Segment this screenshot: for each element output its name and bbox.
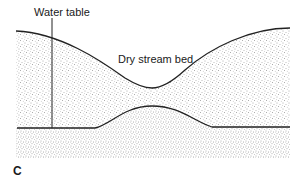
dry-stream-bed-label: Dry stream bed xyxy=(118,53,193,65)
panel-label: C xyxy=(13,164,22,178)
cross-section-diagram xyxy=(0,0,305,180)
diagram-figure: Water table Dry stream bed C xyxy=(0,0,305,180)
water-table-label: Water table xyxy=(34,6,90,18)
